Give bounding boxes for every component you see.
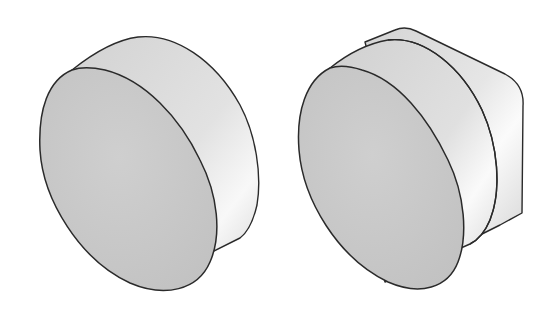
left-cylinder xyxy=(40,37,259,291)
diagram-canvas xyxy=(0,0,548,309)
right-cylinder-with-extension xyxy=(298,28,523,289)
